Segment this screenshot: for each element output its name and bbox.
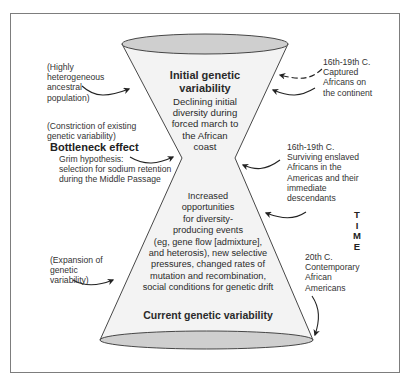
label-line: Africans in the [287,162,359,172]
label-line: during the Middle Passage [59,174,171,184]
label-expansion: (Expansion of genetic variability) [50,255,103,286]
time-axis-label: T I M E [351,210,363,252]
label-captured-africans: 16th-19th C. Captured Africans on the co… [323,57,372,98]
label-line: genetic variability) [47,131,136,141]
label-constriction: (Constriction of existing genetic variab… [47,121,136,141]
bottom-desc-line: opportunities [128,202,288,213]
bottom-desc-line: (eg, gene flow [admixture], [128,237,288,248]
label-line: population) [47,93,104,103]
label-contemporary: 20th C. Contemporary African Americans [305,252,359,293]
label-line: (Constriction of existing [47,121,136,131]
bottom-title: Current genetic variability [118,309,298,321]
bottom-desc-line: producing events [128,225,288,236]
bottom-desc-line: mutation and recombination, [128,271,288,282]
label-line: heterogeneous [47,72,104,82]
label-line: Grim hypothesis: [59,154,171,164]
bottom-desc-line: pressures, changed rates of [128,259,288,270]
label-line: 16th-19th C. [287,142,359,152]
bottom-desc-line: Increased [128,191,288,202]
time-letter: T [351,210,363,221]
label-line: Americas and their [287,173,359,183]
label-line: Surviving enslaved [287,152,359,162]
label-line: Contemporary [305,262,359,272]
time-letter: E [351,242,363,253]
label-line: Africans on [323,77,372,87]
top-desc-line: coast [148,141,262,152]
label-ancestral-population: (Highly heterogeneous ancestral populati… [47,62,104,103]
label-line: the continent [323,88,372,98]
arrow-contemporary-icon [312,296,318,335]
time-letter: M [351,231,363,242]
label-line: (Highly [47,62,104,72]
top-desc-line: forced march to [148,118,262,129]
label-grim-hypothesis: Grim hypothesis: selection for sodium re… [59,154,171,185]
label-line: selection for sodium retention [59,164,171,174]
label-line: genetic [50,265,103,275]
label-line: 16th-19th C. [323,57,372,67]
label-line: African [305,272,359,282]
label-line: Captured [323,67,372,77]
arrow-surviving-icon [243,160,280,169]
label-line: variability) [50,275,103,285]
bottom-ellipse [100,331,313,349]
top-desc-line: Declining initial [148,96,262,107]
top-title-line2: variability [150,82,260,95]
top-desc-line: the African [148,130,262,141]
bottom-desc-line: social conditions for genetic drift [128,282,288,293]
label-line: ancestral [47,82,104,92]
label-line: immediate [287,183,359,193]
top-description: Declining initial diversity during force… [148,96,262,152]
arrow-captured-dashed-icon [280,69,322,78]
bottom-desc-line: for diversity- [128,214,288,225]
label-surviving-enslaved: 16th-19th C. Surviving enslaved Africans… [287,142,359,203]
label-line: descendants [287,193,359,203]
label-line: 20th C. [305,252,359,262]
bottom-description: Increased opportunities for diversity- p… [128,191,288,294]
label-line: (Expansion of [50,255,103,265]
top-title: Initial genetic variability [150,69,260,94]
label-line: Americans [305,283,359,293]
top-desc-line: diversity during [148,107,262,118]
top-ellipse [122,34,288,54]
top-title-line1: Initial genetic [150,69,260,82]
arrow-captured-icon [273,88,315,95]
label-bottleneck-effect: Bottleneck effect [50,141,139,153]
bottom-desc-line: and heterosis), new selective [128,248,288,259]
